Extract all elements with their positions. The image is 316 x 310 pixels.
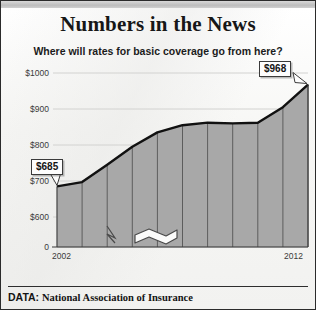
top-decorative-band: [1, 1, 315, 8]
callout-start-value: $685: [31, 159, 63, 175]
footer-divider: [8, 286, 308, 287]
y-axis-tick-700: $700: [1, 176, 49, 186]
page-title: Numbers in the News: [1, 12, 315, 37]
data-source-footer: DATA: National Association of Insurance: [8, 291, 193, 303]
data-source-name: National Association of Insurance: [42, 292, 193, 303]
y-axis-tick-1000: $1000: [1, 68, 49, 78]
y-axis-tick-600: $600: [1, 212, 49, 222]
y-axis-tick-800: $800: [1, 140, 49, 150]
y-axis-tick-900: $900: [1, 104, 49, 114]
infographic-panel: Numbers in the News Where will rates for…: [0, 0, 316, 310]
y-axis-tick-0: 0: [1, 242, 49, 252]
data-source-label: DATA:: [8, 291, 39, 303]
x-axis-tick-end: 2012: [284, 251, 303, 261]
x-axis-tick-start: 2002: [52, 251, 71, 261]
chart-subtitle: Where will rates for basic coverage go f…: [1, 45, 315, 57]
chart-plot-area: $1000 $900 $800 $700 $600 0 2002 2012 $6…: [1, 63, 315, 271]
callout-end-value: $968: [259, 61, 291, 77]
